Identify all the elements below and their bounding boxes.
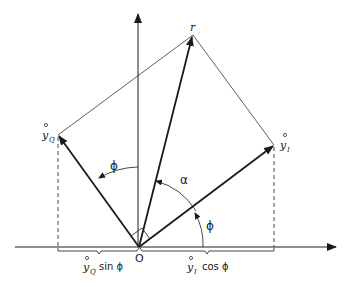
label-alpha: α (180, 173, 188, 187)
svg-text:sin ϕ: sin ϕ (99, 261, 124, 272)
vector-r (139, 37, 192, 247)
parallelogram-edge-top-right (193, 35, 274, 145)
brace-right (140, 248, 274, 254)
svg-text:y: y (41, 129, 49, 142)
angle-arc-phi-lower (195, 213, 203, 247)
svg-text:Q: Q (90, 268, 96, 276)
svg-text:Q: Q (49, 136, 55, 144)
vector-yQ (59, 136, 139, 247)
svg-text:cos ϕ: cos ϕ (202, 261, 229, 272)
label-yQ: y Q (41, 123, 55, 144)
svg-text:y: y (279, 139, 287, 152)
svg-text:r: r (190, 21, 196, 34)
label-r: r (190, 21, 196, 34)
label-phi-upper: ϕ (110, 159, 118, 173)
label-yI-cos-phi: y I cos ϕ (186, 256, 229, 276)
svg-text:y: y (186, 261, 194, 274)
brace-left (58, 248, 139, 254)
parallelogram-edge-top-left (58, 35, 193, 135)
label-origin: O (135, 252, 144, 265)
phasor-diagram: r y Q y I O ϕ α ϕ y Q sin ϕ y I cos ϕ (0, 0, 352, 287)
label-yI: y I (279, 133, 290, 154)
svg-text:y: y (82, 261, 90, 274)
angle-arc-alpha (156, 181, 196, 211)
label-yQ-sin-phi: y Q sin ϕ (82, 256, 124, 276)
angle-arc-phi-upper (99, 167, 138, 178)
label-phi-lower: ϕ (206, 219, 214, 233)
svg-text:I: I (286, 146, 290, 154)
right-angle-marker (131, 228, 150, 239)
svg-text:I: I (193, 268, 197, 276)
